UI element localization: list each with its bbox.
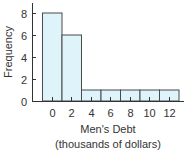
y-tick-labels: 0 2 4 6 8	[21, 8, 27, 108]
y-tick-6: 6	[21, 30, 27, 42]
bars	[43, 13, 180, 101]
x-tick-10: 10	[143, 107, 155, 119]
x-tick-0: 0	[49, 107, 55, 119]
y-tick-2: 2	[21, 74, 27, 86]
x-tick-12: 12	[163, 107, 175, 119]
bar-1	[62, 35, 82, 101]
histogram-chart: 0 2 4 6 8 0 2 4 6 8 10 12 Frequency Men'…	[0, 0, 186, 159]
bar-0	[43, 13, 63, 101]
x-tick-2: 2	[68, 107, 74, 119]
x-axis-label: Men's Debt	[80, 123, 135, 135]
y-tick-8: 8	[21, 8, 27, 20]
y-axis-label: Frequency	[2, 26, 14, 78]
y-tick-4: 4	[21, 52, 27, 64]
x-axis-label-units: (thousands of dollars)	[55, 138, 161, 150]
x-tick-8: 8	[127, 107, 133, 119]
y-tick-0: 0	[21, 96, 27, 108]
x-tick-4: 4	[88, 107, 94, 119]
x-tick-labels: 0 2 4 6 8 10 12	[49, 107, 175, 119]
x-tick-6: 6	[107, 107, 113, 119]
